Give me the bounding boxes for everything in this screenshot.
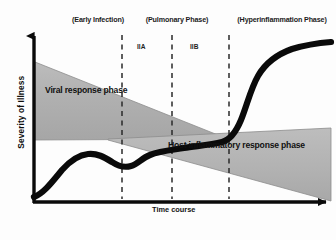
viral-response-band <box>35 62 228 140</box>
y-axis-label: Severity of Illness <box>17 60 25 164</box>
host-inflammatory-response-band <box>108 128 331 201</box>
covid-disease-progression-figure: (Early Infection) (Pulmonary Phase) (Hyp… <box>0 0 336 240</box>
chart-canvas <box>0 0 336 240</box>
subphase-label-iia: IIA <box>137 44 145 51</box>
host-inflammatory-band-label: Host inflammatory response phase <box>168 141 305 150</box>
x-axis-label: Time course <box>152 206 195 213</box>
phase-header-hyperinflammation: (Hyperinflammation Phase) <box>228 16 336 23</box>
subphase-label-iib: IIB <box>190 44 198 51</box>
viral-response-band-label: Viral response phase <box>45 86 127 95</box>
phase-header-pulmonary: (Pulmonary Phase) <box>133 16 221 23</box>
